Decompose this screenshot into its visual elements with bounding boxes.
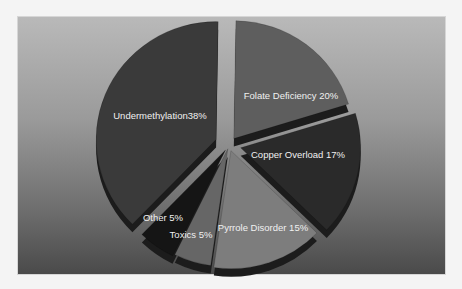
slice-label-pyrrole-disorder: Pyrrole Disorder 15% (218, 222, 309, 233)
slice-label-other: Other 5% (143, 212, 184, 223)
slice-label-copper-overload: Copper Overload 17% (251, 149, 346, 160)
pie-chart: Folate Deficiency 20%Copper Overload 17%… (0, 0, 462, 289)
slice-label-folate-deficiency: Folate Deficiency 20% (244, 90, 339, 101)
slice-label-toxics: Toxics 5% (170, 229, 213, 240)
slice-label-undermethylation: Undermethylation38% (113, 110, 207, 121)
